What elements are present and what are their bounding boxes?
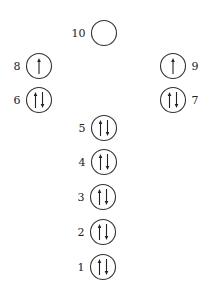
orbital-4: 4 xyxy=(79,150,117,175)
orbital-circle xyxy=(27,88,52,113)
orbital-circle xyxy=(92,116,117,141)
orbital-2: 2 xyxy=(78,220,116,245)
orbital-label: 3 xyxy=(78,191,85,204)
orbital-label: 1 xyxy=(78,261,85,274)
orbital-8: 8 xyxy=(14,54,52,79)
orbital-1: 1 xyxy=(78,255,116,280)
orbital-circle xyxy=(92,21,117,46)
orbital-10: 10 xyxy=(72,21,117,46)
orbital-circle xyxy=(92,150,117,175)
orbital-label: 8 xyxy=(14,60,21,73)
orbital-label: 9 xyxy=(192,60,199,73)
orbital-3: 3 xyxy=(78,185,116,210)
orbital-7: 7 xyxy=(161,88,199,113)
orbital-diagram: 12345678910 xyxy=(0,0,212,290)
orbital-label: 6 xyxy=(14,94,21,107)
orbital-6: 6 xyxy=(14,88,52,113)
orbital-label: 2 xyxy=(78,226,85,239)
orbital-circle xyxy=(91,220,116,245)
orbital-label: 5 xyxy=(79,122,86,135)
orbital-5: 5 xyxy=(79,116,117,141)
orbital-circle xyxy=(91,255,116,280)
orbital-circle xyxy=(161,88,186,113)
orbital-label: 7 xyxy=(192,94,199,107)
orbital-label: 10 xyxy=(72,27,86,40)
orbital-9: 9 xyxy=(161,54,199,79)
orbital-circle xyxy=(91,185,116,210)
orbital-label: 4 xyxy=(79,156,86,169)
